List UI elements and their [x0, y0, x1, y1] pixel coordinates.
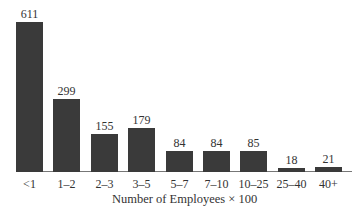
bar-value-label: 299: [47, 85, 87, 97]
bar: [203, 151, 230, 172]
x-tick-label: 40+: [307, 178, 351, 190]
bar-value-label: 85: [234, 137, 274, 149]
bar-chart: 611<12991–21552–31793–5845–7847–108510–2…: [0, 0, 364, 212]
bar: [315, 167, 342, 172]
bar-value-label: 155: [85, 120, 125, 132]
bar-value-label: 84: [160, 137, 200, 149]
bar: [16, 22, 43, 172]
bar-value-label: 179: [122, 114, 162, 126]
bar: [53, 99, 80, 172]
bar-value-label: 21: [309, 153, 349, 165]
x-axis-label-text: Number of Employees × 100: [112, 193, 257, 206]
bar: [166, 151, 193, 172]
bar-value-label: 611: [10, 8, 50, 20]
bar: [278, 168, 305, 172]
bar: [128, 128, 155, 172]
bar-value-label: 18: [272, 154, 312, 166]
bar: [240, 151, 267, 172]
bar-value-label: 84: [197, 137, 237, 149]
bar: [91, 134, 118, 172]
